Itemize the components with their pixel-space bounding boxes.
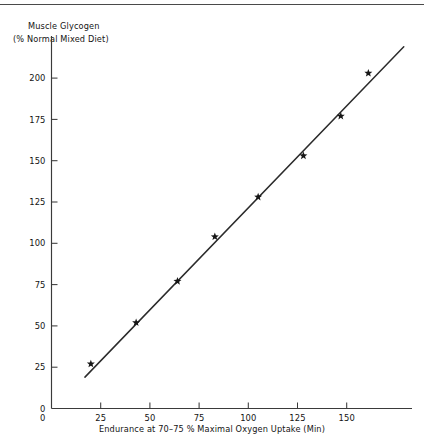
x-tick-label: 125 xyxy=(289,413,305,423)
x-tick-label: 50 xyxy=(144,413,155,423)
data-point-marker xyxy=(337,112,345,120)
regression-line xyxy=(85,47,404,377)
scatter-plot: 0255075100125150175200 0255075100125150 xyxy=(0,0,424,446)
y-tick-label: 125 xyxy=(29,197,45,207)
axes xyxy=(52,36,413,409)
y-tick-label: 50 xyxy=(35,321,46,331)
data-point-marker xyxy=(364,69,372,77)
y-tick-label: 75 xyxy=(35,280,46,290)
y-axis-ticks: 0255075100125150175200 xyxy=(29,73,57,413)
y-tick-label: 175 xyxy=(29,115,45,125)
data-points xyxy=(87,69,372,367)
fit-line xyxy=(85,47,404,377)
x-tick-label: 75 xyxy=(194,413,205,423)
y-tick-label: 150 xyxy=(29,156,45,166)
y-tick-label: 200 xyxy=(29,73,45,83)
x-axis-title: Endurance at 70–75 % Maximal Oxygen Upta… xyxy=(0,424,424,434)
y-tick-label: 100 xyxy=(29,238,45,248)
data-point-marker xyxy=(87,360,95,368)
x-tick-label: 100 xyxy=(240,413,256,423)
y-tick-label: 25 xyxy=(35,362,46,372)
x-axis-ticks: 0255075100125150 xyxy=(40,403,355,423)
x-tick-label: 25 xyxy=(95,413,106,423)
x-tick-label: 0 xyxy=(40,413,45,423)
x-tick-label: 150 xyxy=(339,413,355,423)
chart-figure: Muscle Glycogen (% Normal Mixed Diet) 02… xyxy=(0,0,424,446)
